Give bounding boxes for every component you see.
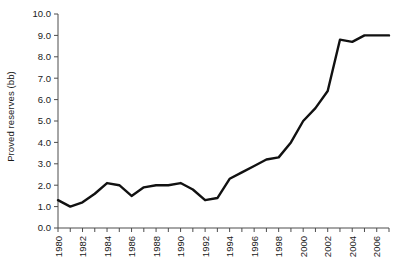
x-tick-label: 1992 [200,236,211,257]
x-tick-label: 2000 [298,236,309,257]
y-tick-label: 3.0 [38,158,51,169]
x-tick-label: 1982 [77,236,88,257]
x-tick-label: 1998 [273,236,284,257]
x-tick-label: 2002 [322,236,333,257]
x-axis-ticks: 1980198219841986198819901992199419961998… [53,228,389,257]
proved-reserves-series-line [58,35,389,206]
x-tick-label: 1990 [175,236,186,257]
x-tick-label: 1980 [53,236,64,257]
y-tick-label: 7.0 [38,73,51,84]
y-tick-label: 5.0 [38,115,51,126]
y-tick-label: 9.0 [38,30,51,41]
x-tick-label: 1988 [151,236,162,257]
chart-figure: Proved reserves (bb) 0.01.02.03.04.05.06… [0,0,403,273]
y-tick-label: 6.0 [38,94,51,105]
y-axis-ticks: 0.01.02.03.04.05.06.07.08.09.010.0 [33,8,59,233]
x-tick-label: 1986 [126,236,137,257]
x-tick-label: 1984 [102,236,113,257]
y-tick-label: 4.0 [38,137,51,148]
x-tick-label: 1994 [224,236,235,257]
y-tick-label: 2.0 [38,180,51,191]
y-tick-label: 10.0 [33,8,52,19]
y-tick-label: 1.0 [38,201,51,212]
x-tick-label: 1996 [249,236,260,257]
y-tick-label: 8.0 [38,51,51,62]
x-tick-label: 2004 [347,236,358,257]
x-tick-label: 2006 [371,236,382,257]
line-chart-plot: 0.01.02.03.04.05.06.07.08.09.010.0 19801… [0,0,403,273]
y-tick-label: 0.0 [38,222,51,233]
